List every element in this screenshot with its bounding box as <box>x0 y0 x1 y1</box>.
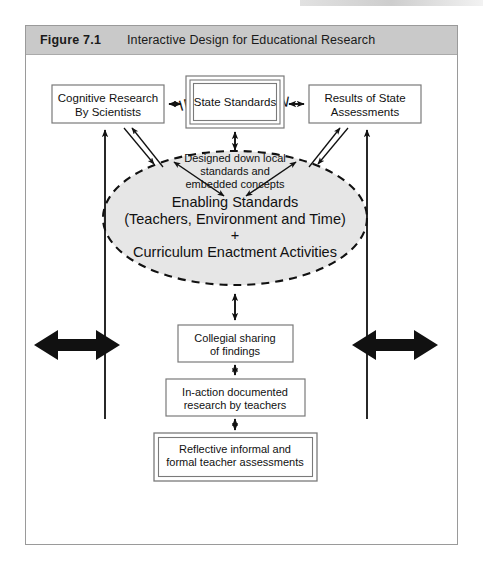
instruction-line-3: + <box>231 227 239 243</box>
left-feedback-arrow-shape <box>34 330 120 360</box>
instruction-line-1: Enabling Standards <box>172 194 299 210</box>
cognitive-research-node[interactable]: Cognitive Research By Scientists <box>52 85 164 123</box>
connector-cognitive-to-instruction <box>124 128 154 164</box>
in-action-research-line-2: research by teachers <box>184 399 287 411</box>
collegial-sharing-line-2: of findings <box>210 345 261 357</box>
left-feedback-bold-arrow <box>34 330 120 360</box>
instruction-line-2: (Teachers, Environment and Time) <box>124 211 346 227</box>
collegial-sharing-line-1: Collegial sharing <box>194 332 275 344</box>
state-standards-label: State Standards <box>194 96 277 108</box>
cognitive-research-line-2: By Scientists <box>75 106 141 118</box>
cognitive-research-line-1: Cognitive Research <box>58 92 158 104</box>
results-of-state-assessments-node[interactable]: Results of State Assessments <box>309 85 421 123</box>
diagram-canvas: INSTRUCTION Enabling Standards (Teachers… <box>26 54 457 544</box>
figure-frame: Figure 7.1 Interactive Design for Educat… <box>25 25 458 545</box>
collegial-sharing-node[interactable]: Collegial sharing of findings <box>178 325 293 362</box>
figure-page: Figure 7.1 Interactive Design for Educat… <box>0 0 483 563</box>
connector-instruction-to-cognitive <box>132 128 163 167</box>
in-action-research-node[interactable]: In-action documented research by teacher… <box>166 379 305 416</box>
connector-results-to-instruction <box>318 128 348 164</box>
results-assessments-line-2: Assessments <box>331 106 400 118</box>
designed-down-line-1: Designed down local <box>184 152 286 164</box>
figure-title: Interactive Design for Educational Resea… <box>127 33 375 47</box>
results-assessments-line-1: Results of State <box>324 92 405 104</box>
designed-down-line-2: standards and <box>200 165 270 177</box>
connector-instruction-to-results <box>309 128 340 167</box>
reflective-assessments-line-2: formal teacher assessments <box>166 456 304 468</box>
instruction-line-4: Curriculum Enactment Activities <box>133 244 337 260</box>
in-action-research-line-1: In-action documented <box>182 386 288 398</box>
reflective-assessments-line-1: Reflective informal and <box>179 443 291 455</box>
figure-number: Figure 7.1 <box>40 33 101 47</box>
right-feedback-arrow-shape <box>352 330 438 360</box>
state-standards-node[interactable]: State Standards <box>186 76 284 128</box>
reflective-assessments-node[interactable]: Reflective informal and formal teacher a… <box>154 433 317 481</box>
scan-artifact-band <box>300 0 483 6</box>
right-feedback-bold-arrow <box>352 330 438 360</box>
figure-header: Figure 7.1 Interactive Design for Educat… <box>26 26 457 55</box>
